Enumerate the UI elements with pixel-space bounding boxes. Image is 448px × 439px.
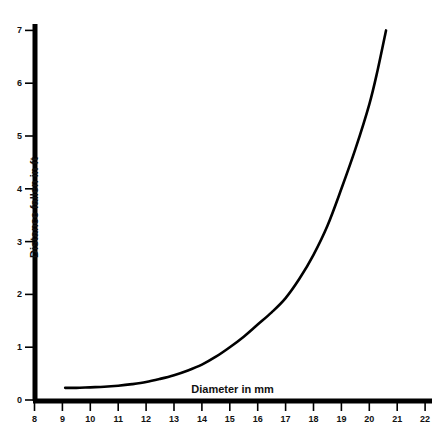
x-tick-label: 21 (392, 415, 402, 424)
x-tick-label: 11 (113, 415, 123, 424)
x-tick-label: 13 (169, 415, 179, 424)
x-tick-label: 20 (364, 415, 374, 424)
data-series-line (65, 30, 386, 387)
x-tick-label: 16 (253, 415, 263, 424)
y-tick-label: 5 (8, 132, 22, 141)
y-tick-label: 2 (8, 290, 22, 299)
x-tick-label: 22 (420, 415, 430, 424)
x-tick-label: 19 (336, 415, 346, 424)
y-tick-label: 7 (8, 26, 22, 35)
plot-area (0, 0, 448, 439)
y-tick-label: 6 (8, 79, 22, 88)
chart-container: 8910111213141516171819202122 01234567 Di… (0, 0, 448, 439)
x-tick-label: 14 (197, 415, 207, 424)
y-tick-label: 4 (8, 184, 22, 193)
x-tick-label: 10 (85, 415, 95, 424)
y-tick-label: 0 (8, 396, 22, 405)
x-tick-label: 18 (308, 415, 318, 424)
x-tick-label: 12 (141, 415, 151, 424)
x-tick-label: 17 (281, 415, 291, 424)
y-tick-label: 3 (8, 237, 22, 246)
x-tick-label: 8 (32, 415, 37, 424)
y-tick-label: 1 (8, 343, 22, 352)
y-axis-title: Distance fallen in ft (28, 157, 40, 258)
x-tick-label: 9 (60, 415, 65, 424)
x-tick-label: 15 (225, 415, 235, 424)
x-axis-title: Diameter in mm (191, 383, 274, 395)
